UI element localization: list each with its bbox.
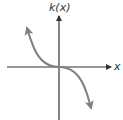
graph-canvas (0, 0, 123, 120)
x-axis-label: x (114, 61, 121, 72)
function-graph: k(x) x (0, 0, 123, 120)
curve-left-branch (27, 28, 59, 67)
curve-right-branch (59, 67, 91, 108)
y-axis-label: k(x) (49, 2, 70, 13)
